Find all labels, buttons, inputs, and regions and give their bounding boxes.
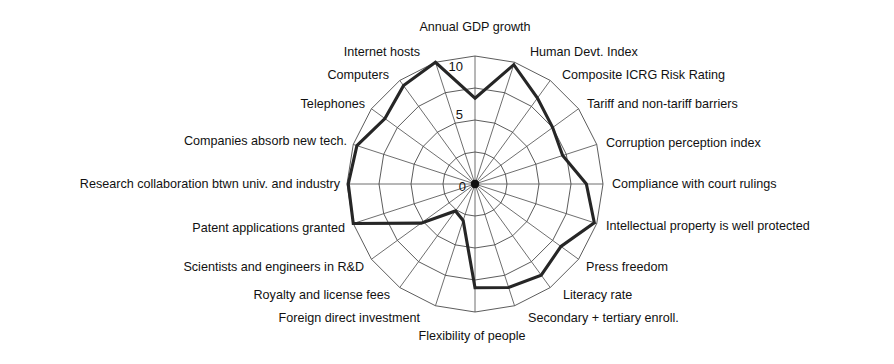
radar-axis-labels: Annual GDP growthHuman Devt. IndexCompos… (80, 20, 810, 343)
radar-origin-dot (471, 180, 479, 188)
axis-label-12: Royalty and license fees (253, 288, 390, 302)
axis-label-8: Literacy rate (563, 288, 632, 302)
radar-data-polygon (348, 62, 594, 287)
axis-label-13: Scientists and engineers in R&D (183, 260, 364, 274)
axis-label-3: Tariff and non-tariff barriers (587, 97, 738, 111)
axis-label-0: Annual GDP growth (419, 20, 530, 34)
axis-label-11: Foreign direct investment (279, 311, 421, 325)
axis-label-15: Research collaboration btwn univ. and in… (80, 177, 341, 191)
radial-tick-label-0: 0 (459, 179, 466, 194)
axis-label-7: Press freedom (586, 260, 668, 274)
axis-label-4: Corruption perception index (606, 136, 761, 150)
axis-label-9: Secondary + tertiary enroll. (528, 311, 679, 325)
axis-label-5: Compliance with court rulings (612, 177, 777, 191)
axis-label-2: Composite ICRG Risk Rating (562, 68, 725, 82)
axis-label-17: Telephones (301, 97, 365, 111)
axis-label-16: Companies absorb new tech. (184, 134, 347, 148)
radar-series-polygon (348, 62, 594, 287)
radial-tick-label-10: 10 (449, 59, 463, 74)
radial-tick-label-5: 5 (456, 107, 463, 122)
radar-chart-figure: 1050 Annual GDP growthHuman Devt. IndexC… (0, 0, 894, 364)
axis-label-14: Patent applications granted (192, 221, 345, 235)
axis-label-6: Intellectual property is well protected (606, 219, 810, 233)
axis-label-19: Internet hosts (344, 45, 420, 59)
axis-label-1: Human Devt. Index (530, 45, 639, 59)
axis-label-18: Computers (327, 68, 389, 82)
radar-tick-labels: 1050 (449, 59, 466, 194)
radar-center-hub (471, 180, 479, 188)
axis-label-10: Flexibility of people (418, 329, 525, 343)
radar-chart-svg: 1050 Annual GDP growthHuman Devt. IndexC… (0, 0, 894, 364)
